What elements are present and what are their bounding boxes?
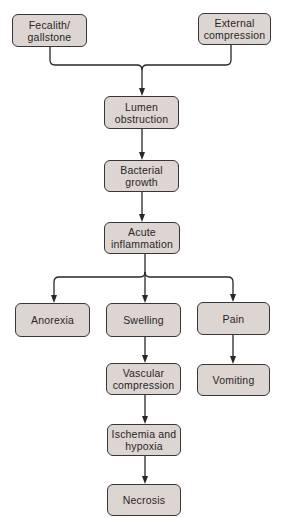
node-bacterial-growth: Bacterial growth: [104, 160, 179, 192]
node-external-compression: External compression: [198, 13, 271, 45]
node-pain: Pain: [197, 302, 270, 335]
edge-external-merge: [142, 45, 231, 70]
node-fecalith-gallstone: Fecalith/ gallstone: [12, 14, 87, 47]
node-anorexia: Anorexia: [15, 303, 90, 337]
node-vomiting: Vomiting: [197, 364, 270, 396]
node-ischemia-hypoxia: Ischemia and hypoxia: [107, 424, 181, 456]
edge-fecalith-merge: [50, 47, 142, 70]
node-lumen-obstruction: Lumen obstruction: [104, 96, 179, 129]
node-vascular-compression: Vascular compression: [106, 363, 181, 395]
node-swelling: Swelling: [106, 303, 181, 337]
node-acute-inflammation: Acute inflammation: [104, 222, 180, 254]
node-necrosis: Necrosis: [107, 484, 181, 516]
